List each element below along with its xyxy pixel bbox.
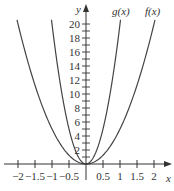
y-tick-label: 14 — [69, 60, 81, 72]
ticks: −2−1.5−1−0.50.511.522468101214161820 — [12, 18, 157, 182]
x-tick-label: −2 — [12, 170, 24, 182]
x-tick-label: −0.5 — [59, 170, 79, 182]
y-axis-label: y — [75, 3, 81, 15]
x-tick-label: 1 — [117, 170, 123, 182]
y-tick-label: 2 — [75, 144, 81, 156]
y-tick-label: 10 — [69, 88, 81, 100]
chart: −2−1.5−1−0.50.511.522468101214161820 x y… — [0, 0, 174, 191]
x-tick-label: −1.5 — [25, 170, 45, 182]
y-tick-label: 8 — [75, 102, 81, 114]
x-tick-label: −1 — [46, 170, 58, 182]
y-tick-label: 18 — [69, 32, 81, 44]
y-tick-label: 6 — [75, 116, 81, 128]
y-axis-arrow-icon — [83, 4, 89, 12]
x-axis-arrow-icon — [164, 161, 172, 167]
x-tick-label: 2 — [151, 170, 157, 182]
x-axis-label: x — [165, 172, 171, 184]
x-tick-label: 1.5 — [130, 170, 144, 182]
g-curve-label: g(x) — [112, 5, 130, 18]
y-tick-label: 12 — [69, 74, 80, 86]
x-tick-label: 0.5 — [96, 170, 110, 182]
y-tick-label: 16 — [69, 46, 81, 58]
f-curve-label: f(x) — [145, 5, 161, 18]
y-tick-label: 4 — [75, 130, 81, 142]
axes — [4, 4, 172, 180]
y-tick-label: 20 — [69, 18, 81, 30]
